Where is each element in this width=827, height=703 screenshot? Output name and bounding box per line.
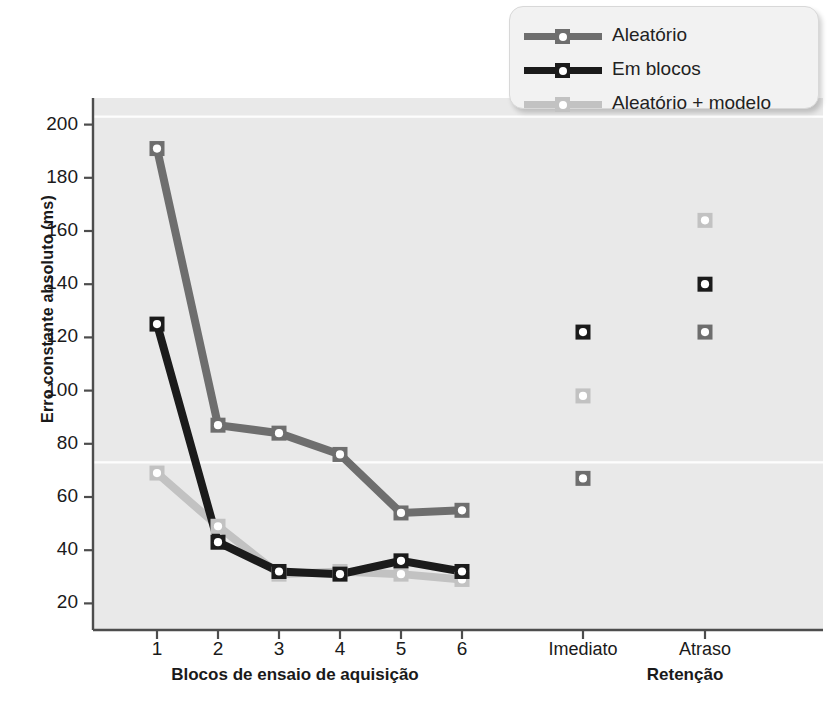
data-point-1-block1-center (153, 320, 161, 328)
data-point-1-block3-center (275, 567, 283, 575)
legend-swatch-em-blocos (524, 63, 602, 76)
data-point-1-block6-center (458, 567, 466, 575)
y-tick-label-40: 40 (8, 538, 78, 560)
data-point-1-atraso-center (701, 280, 709, 288)
x-tick-label-6: 6 (422, 638, 502, 660)
y-tick-label-100: 100 (8, 379, 78, 401)
data-point-1-block2-center (214, 538, 222, 546)
data-point-0-block2-center (214, 421, 222, 429)
y-tick-label-60: 60 (8, 485, 78, 507)
x-group-label-acquisition: Blocos de ensaio de aquisição (105, 665, 485, 685)
y-tick-label-140: 140 (8, 272, 78, 294)
data-point-2-block1-center (153, 469, 161, 477)
y-tick-label-120: 120 (8, 325, 78, 347)
data-point-1-block5-center (397, 557, 405, 565)
data-point-0-block1-center (153, 144, 161, 152)
data-point-2-block5-center (397, 570, 405, 578)
data-point-2-block2-center (214, 522, 222, 530)
legend-label-aleatorio: Aleatório (612, 24, 687, 46)
x-group-label-retention: Retenção (560, 665, 810, 685)
data-point-0-block4-center (336, 450, 344, 458)
data-point-0-atraso-center (701, 328, 709, 336)
y-tick-label-200: 200 (8, 113, 78, 135)
data-point-2-atraso-center (701, 216, 709, 224)
legend-label-aleatorio-modelo: Aleatório + modelo (612, 92, 771, 114)
legend-item-aleatorio-modelo[interactable]: Aleatório + modelo (524, 89, 771, 117)
data-point-0-imediato-center (579, 474, 587, 482)
y-tick-label-160: 160 (8, 219, 78, 241)
legend-label-em-blocos: Em blocos (612, 58, 701, 80)
data-point-0-block3-center (275, 429, 283, 437)
legend-item-em-blocos[interactable]: Em blocos (524, 55, 701, 83)
data-point-0-block6-center (458, 506, 466, 514)
legend-swatch-aleatorio (524, 29, 602, 42)
y-tick-label-180: 180 (8, 166, 78, 188)
chart-legend: Aleatório Em blocos Aleatório + modelo (509, 6, 819, 109)
data-point-0-block5-center (397, 509, 405, 517)
data-point-1-imediato-center (579, 328, 587, 336)
y-tick-label-20: 20 (8, 591, 78, 613)
chart-figure: Erro constante absoluto (ms) 20018016014… (0, 0, 827, 703)
y-tick-label-80: 80 (8, 432, 78, 454)
data-point-1-block4-center (336, 570, 344, 578)
data-point-2-imediato-center (579, 392, 587, 400)
legend-swatch-aleatorio-modelo (524, 97, 602, 110)
x-category-label-atraso: Atraso (625, 639, 785, 660)
legend-item-aleatorio[interactable]: Aleatório (524, 21, 687, 49)
